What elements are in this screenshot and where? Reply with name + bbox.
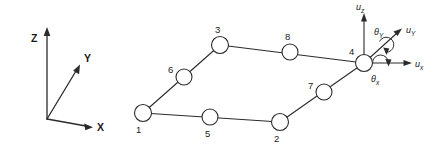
node-6-circle[interactable]: [176, 69, 192, 85]
uz-subscript: z: [360, 7, 365, 14]
uz-arrowhead: [361, 13, 367, 22]
x-axis-label: X: [97, 121, 104, 133]
element-edges: [143, 45, 364, 122]
node-2-circle[interactable]: [272, 114, 289, 131]
ux-subscript: x: [419, 64, 424, 71]
theta-y-subscript: Y: [379, 32, 384, 39]
element-nodes: 1 2 3 4 5 6 7 8: [135, 24, 373, 144]
z-axis-label: Z: [31, 32, 38, 44]
node-5-circle[interactable]: [202, 109, 218, 125]
theta-x-label: θx: [371, 74, 380, 86]
y-axis-line: [47, 71, 76, 119]
node-8-label: 8: [285, 31, 290, 42]
theta-x-subscript: x: [375, 79, 380, 86]
node-2-label: 2: [274, 133, 279, 144]
z-axis-arrowhead: [44, 27, 51, 36]
node-6-label: 6: [168, 64, 173, 75]
dof-indicators-node-4: uz uY ux θY θx: [356, 2, 424, 86]
node-8-circle[interactable]: [282, 44, 298, 60]
node-3-circle[interactable]: [212, 37, 229, 54]
node-1-label: 1: [136, 124, 141, 135]
uz-label: uz: [356, 2, 365, 14]
element-diagram: Z Y X: [0, 0, 442, 152]
node-7-label: 7: [308, 80, 313, 91]
uy-subscript: Y: [411, 30, 416, 37]
node-1-circle[interactable]: [135, 105, 152, 122]
global-axes-triad: Z Y X: [31, 27, 104, 133]
ux-arrowhead: [404, 60, 413, 66]
y-axis-label: Y: [84, 52, 91, 64]
node-5-label: 5: [205, 128, 210, 139]
theta-x-arc: [373, 55, 389, 63]
node-3-label: 3: [215, 24, 220, 35]
node-4-label: 4: [349, 46, 354, 57]
ux-label: ux: [415, 59, 424, 71]
x-axis-line: [47, 119, 86, 126]
uy-label: uY: [406, 25, 416, 37]
x-axis-arrowhead: [84, 124, 93, 131]
theta-y-label: θY: [374, 27, 384, 39]
figure-canvas: Z Y X: [0, 0, 442, 152]
theta-y-arrowhead: [383, 48, 389, 55]
node-4-circle[interactable]: [356, 55, 373, 72]
node-7-circle[interactable]: [316, 84, 332, 100]
